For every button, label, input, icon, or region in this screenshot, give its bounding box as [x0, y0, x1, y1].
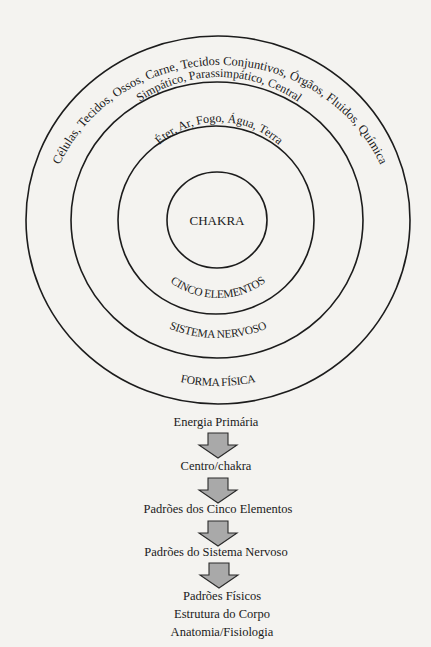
- flow-chart: Energia Primária Centro/chakra Padrões d…: [144, 415, 293, 639]
- flow-final-padroes-fisicos: Padrões Físicos: [183, 589, 261, 603]
- down-arrow-icon: [199, 521, 237, 546]
- flow-final-estrutura-corpo: Estrutura do Corpo: [174, 607, 270, 621]
- flow-step-sistema-nervoso: Padrões do Sistema Nervoso: [144, 545, 287, 559]
- down-arrow-icon: [199, 433, 237, 458]
- chakra-diagram: CHAKRA Células, Tecidos, Ossos, Carne, T…: [0, 0, 431, 647]
- down-arrow-icon: [199, 478, 237, 503]
- ring-name-cinco-elementos: CINCO ELEMENTOS: [169, 274, 267, 300]
- ring-name-sistema-nervoso: SISTEMA NERVOSO: [168, 319, 267, 340]
- center-label: CHAKRA: [190, 213, 246, 228]
- down-arrow-icon: [200, 563, 238, 588]
- flow-step-cinco-elementos: Padrões dos Cinco Elementos: [144, 502, 293, 516]
- ring-contents-cinco-elementos: Éter, Ar, Fogo, Água, Terra: [152, 111, 286, 148]
- flow-final-anatomia-fisiologia: Anatomia/Fisiologia: [171, 625, 274, 639]
- flow-step-energia-primaria: Energia Primária: [174, 415, 259, 429]
- flow-step-centro-chakra: Centro/chakra: [181, 459, 252, 473]
- ring-name-forma-fisica: FORMA FÍSICA: [180, 372, 257, 388]
